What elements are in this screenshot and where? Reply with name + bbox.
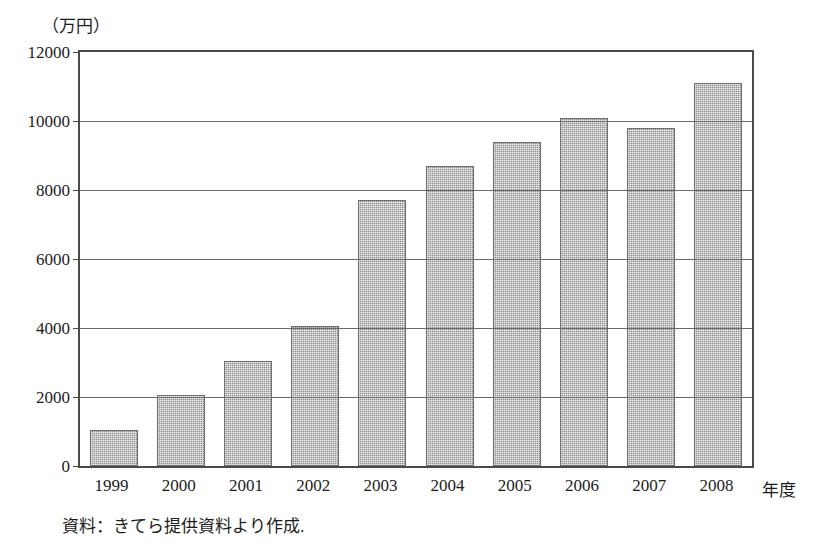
bar-2006 (560, 118, 608, 466)
y-gridline (80, 121, 752, 122)
x-tick-label-2008: 2008 (699, 476, 733, 496)
bar-2004 (426, 166, 474, 466)
y-tick-label: 0 (62, 458, 71, 475)
x-tick-label-2005: 2005 (498, 476, 532, 496)
bar-2001 (224, 361, 272, 466)
x-tick-label-2004: 2004 (431, 476, 465, 496)
y-tick-mark (73, 466, 80, 467)
x-tick-label-1999: 1999 (95, 476, 129, 496)
y-axis-unit-caption: （万円） (42, 12, 110, 37)
x-tick-label-2006: 2006 (565, 476, 599, 496)
y-tick-mark (73, 121, 80, 122)
y-tick-mark (73, 397, 80, 398)
y-gridline (80, 328, 752, 329)
x-axis-title: 年度 (762, 476, 796, 501)
x-tick-label-2003: 2003 (363, 476, 397, 496)
y-gridline (80, 190, 752, 191)
y-gridline (80, 259, 752, 260)
source-note: 資料：きてら提供資料より作成. (62, 512, 304, 537)
bar-chart-figure: （万円） 020004000600080001000012000 1999200… (0, 0, 818, 554)
y-tick-label: 2000 (36, 389, 70, 406)
bar-2008 (694, 83, 742, 466)
y-tick-mark (73, 328, 80, 329)
bar-2003 (358, 200, 406, 466)
y-tick-label: 8000 (36, 182, 70, 199)
y-tick-mark (73, 52, 80, 53)
plot-area: 020004000600080001000012000 (78, 50, 754, 468)
bar-1999 (90, 430, 138, 466)
x-tick-label-2002: 2002 (296, 476, 330, 496)
y-tick-label: 12000 (28, 44, 71, 61)
x-tick-label-2007: 2007 (632, 476, 666, 496)
bar-2000 (157, 395, 205, 466)
x-tick-label-2000: 2000 (162, 476, 196, 496)
y-tick-label: 6000 (36, 251, 70, 268)
x-tick-label-2001: 2001 (229, 476, 263, 496)
y-tick-label: 10000 (28, 113, 71, 130)
y-tick-mark (73, 259, 80, 260)
y-tick-label: 4000 (36, 320, 70, 337)
y-tick-mark (73, 190, 80, 191)
y-gridline (80, 397, 752, 398)
bar-2007 (627, 128, 675, 466)
